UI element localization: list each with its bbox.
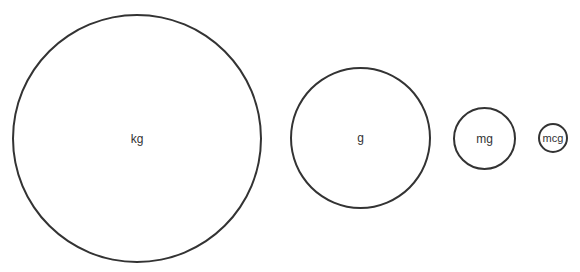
units-of-mass-diagram: kg g mg mcg [0, 0, 580, 272]
circle-microgram: mcg [538, 123, 568, 153]
circle-milligram: mg [453, 107, 516, 170]
circle-kilogram: kg [12, 14, 262, 263]
label-kg: kg [131, 133, 144, 145]
label-g: g [357, 132, 364, 144]
circle-gram: g [290, 67, 431, 209]
label-mcg: mcg [543, 133, 564, 144]
label-mg: mg [476, 133, 493, 145]
